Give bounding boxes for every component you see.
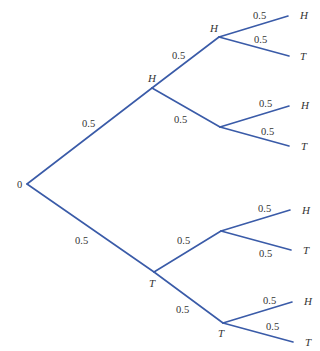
branch-probability: 0.5 (75, 235, 88, 246)
tree-branch (152, 37, 219, 88)
outcome-labels: HTHTHTHT (299, 9, 313, 348)
node-labels: HTHT (147, 22, 225, 339)
branch-probability: 0.5 (82, 118, 95, 129)
branch-probability: 0.5 (261, 126, 274, 137)
tree-branch (27, 184, 154, 272)
node-label: T (218, 327, 225, 339)
tree-branch (223, 323, 293, 342)
tree-branch (154, 272, 223, 323)
tree-branch (221, 210, 290, 231)
tree-branch (220, 106, 289, 127)
node-label: H (147, 72, 157, 84)
tree-branch (220, 127, 289, 146)
branch-probability: 0.5 (259, 248, 272, 259)
probability-tree-diagram: 0.50.50.50.50.50.50.50.50.50.50.50.50.50… (0, 0, 320, 351)
tree-branch (27, 88, 152, 184)
leaf-outcome-label: T (301, 140, 308, 152)
probability-labels: 0.50.50.50.50.50.50.50.50.50.50.50.50.50… (75, 10, 279, 332)
node-label: H (209, 22, 219, 34)
branch-probability: 0.5 (176, 304, 189, 315)
tree-branch (223, 302, 292, 323)
branch-probability: 0.5 (258, 203, 271, 214)
branch-probability: 0.5 (172, 50, 185, 61)
tree-edges (27, 16, 293, 342)
leaf-outcome-label: H (300, 99, 310, 111)
leaf-outcome-label: T (305, 336, 312, 348)
branch-probability: 0.5 (174, 114, 187, 125)
branch-probability: 0.5 (263, 295, 276, 306)
branch-probability: 0.5 (266, 321, 279, 332)
leaf-outcome-label: T (300, 50, 307, 62)
branch-probability: 0.5 (253, 10, 266, 21)
leaf-outcome-label: H (303, 295, 313, 307)
root-label: 0 (17, 179, 22, 190)
branch-probability: 0.5 (259, 98, 272, 109)
leaf-outcome-label: H (301, 204, 311, 216)
leaf-outcome-label: H (299, 9, 309, 21)
node-label: T (149, 277, 156, 289)
branch-probability: 0.5 (254, 34, 267, 45)
leaf-outcome-label: T (303, 244, 310, 256)
tree-branch (221, 231, 291, 250)
branch-probability: 0.5 (177, 235, 190, 246)
